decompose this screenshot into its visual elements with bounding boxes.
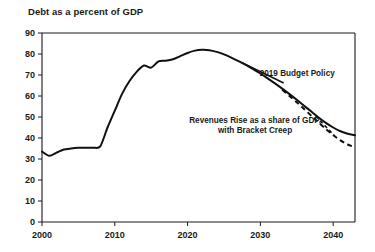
x-tick-marks (42, 222, 333, 226)
y-tick-label: 0 (30, 217, 35, 227)
x-tick-label: 2010 (105, 230, 125, 240)
y-tick-label: 60 (25, 91, 35, 101)
x-axis-tick-labels: 20002010202020302040 (32, 230, 343, 240)
chart-plot-area: 0102030405060708090 20002010202020302040… (0, 0, 375, 252)
annotation-revenues-line2: with Bracket Creep (217, 126, 292, 135)
debt-gdp-chart: Debt as a percent of GDP 010203040506070… (0, 0, 375, 252)
y-tick-label: 10 (25, 196, 35, 206)
y-tick-label: 40 (25, 133, 35, 143)
y-tick-label: 80 (25, 49, 35, 59)
y-tick-marks (38, 33, 42, 222)
annotation-revenues-line1: Revenues Rise as a share of GDP, (189, 116, 321, 125)
x-tick-label: 2030 (250, 230, 270, 240)
series-line-solid (42, 50, 355, 156)
chart-annotations: 2019 Budget PolicyRevenues Rise as a sha… (189, 62, 335, 135)
y-tick-label: 90 (25, 28, 35, 38)
axis-frame (42, 33, 355, 222)
y-tick-label: 30 (25, 154, 35, 164)
chart-series-layer (42, 50, 355, 156)
chart-axes (42, 33, 355, 222)
y-tick-label: 70 (25, 70, 35, 80)
x-tick-label: 2020 (178, 230, 198, 240)
x-tick-label: 2000 (32, 230, 52, 240)
y-axis-tick-labels: 0102030405060708090 (25, 28, 35, 227)
y-tick-label: 50 (25, 112, 35, 122)
y-tick-label: 20 (25, 175, 35, 185)
x-tick-label: 2040 (323, 230, 343, 240)
